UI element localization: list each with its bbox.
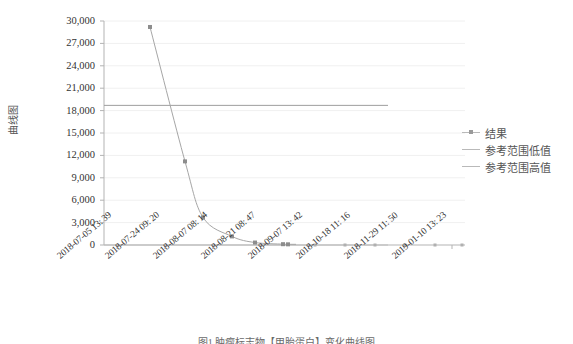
data-point-marker — [434, 244, 437, 247]
legend-item-label: 结果 — [485, 125, 507, 141]
figure-caption: 图1 肿瘤标志物【甲胎蛋白】变化曲线图 — [0, 334, 573, 344]
result-curve — [150, 27, 296, 244]
data-point-marker — [281, 242, 285, 246]
data-point-marker — [148, 25, 152, 29]
legend-item[interactable]: 结果 — [462, 124, 572, 141]
legend-item[interactable]: 参考范围低值 — [462, 141, 572, 158]
chart-figure: 曲线图 03,0006,0009,00012,00015,00018,00021… — [0, 0, 573, 344]
data-point-marker — [344, 244, 347, 247]
data-point-marker — [461, 244, 464, 247]
legend-item-label: 参考范围低值 — [485, 142, 551, 158]
line-icon — [462, 145, 480, 155]
line-marker-icon — [462, 128, 480, 138]
chart-legend: 结果参考范围低值参考范围高值 — [462, 124, 572, 175]
line-icon — [462, 162, 480, 172]
data-point-marker — [286, 242, 290, 246]
data-point-marker — [183, 159, 187, 163]
legend-item-label: 参考范围高值 — [485, 159, 551, 175]
data-point-marker — [374, 244, 377, 247]
legend-item[interactable]: 参考范围高值 — [462, 158, 572, 175]
